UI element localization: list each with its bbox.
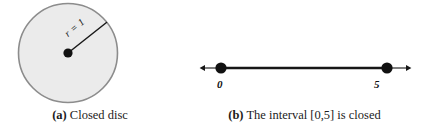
closed-disc-diagram: r = 1 [0, 0, 180, 104]
caption-b-text: The interval [0,5] is closed [246, 108, 380, 122]
caption-a-tag: (a) [52, 108, 67, 122]
disc-center-dot [63, 48, 72, 57]
tick-label-5: 5 [374, 78, 380, 90]
closed-interval-diagram: 0 5 [180, 0, 429, 104]
endpoint-dot-right [381, 62, 392, 73]
caption-b: (b) The interval [0,5] is closed [180, 107, 429, 123]
endpoint-dot-left [215, 62, 226, 73]
figure-panel-a: r = 1 (a) Closed disc [0, 0, 180, 133]
caption-a: (a) Closed disc [0, 107, 180, 123]
tick-label-0: 0 [217, 78, 223, 90]
caption-b-tag: (b) [228, 108, 243, 122]
caption-a-text: Closed disc [70, 108, 128, 122]
figure-panel-b: 0 5 (b) The interval [0,5] is closed [180, 0, 429, 133]
